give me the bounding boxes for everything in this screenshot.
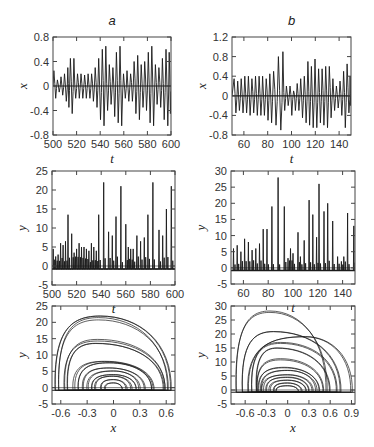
panel-title: b <box>288 13 295 28</box>
series-line <box>52 182 175 269</box>
y-tick-label: 20 <box>36 184 48 196</box>
x-tick-label: 120 <box>306 138 324 150</box>
plot-area <box>53 46 171 126</box>
y-tick-label: -0.8 <box>209 129 228 141</box>
x-axis: -0.6-0.300.30.60.9x <box>236 306 359 435</box>
y-tick-label: 15 <box>215 213 227 225</box>
y-tick-label: 0.8 <box>34 31 49 43</box>
x-tick-label: 580 <box>138 138 156 150</box>
y-tick-label: 30 <box>215 300 227 312</box>
y-tick-label: 1.2 <box>213 31 228 43</box>
x-axis: 500520540560580600t <box>44 37 180 166</box>
y-tick-label: 20 <box>36 316 48 328</box>
plot-area <box>232 52 351 130</box>
y-tick-label: 0 <box>42 260 48 272</box>
y-tick-label: 10 <box>36 349 48 361</box>
x-tick-label: 560 <box>117 288 135 300</box>
y-tick-label: -0.4 <box>30 105 49 117</box>
x-tick-label: 540 <box>92 288 110 300</box>
x-axis-label: t <box>110 151 114 166</box>
x-tick-label: 100 <box>282 138 300 150</box>
x-tick-label: 540 <box>91 138 109 150</box>
x-tick-label: 0 <box>110 407 116 419</box>
y-axis: -5051015202530y <box>193 300 355 410</box>
x-tick-label: 100 <box>284 287 302 299</box>
chart-panel-b-middle: 6080100120140t-5051015202530y <box>193 165 356 315</box>
y-tick-label: 10 <box>215 356 227 368</box>
chart-panel-a-top: 500520540560580600t-0.8-0.400.40.8xa <box>15 13 180 166</box>
y-axis-label: y <box>193 352 208 360</box>
y-tick-label: 5 <box>42 365 48 377</box>
x-tick-label: 600 <box>166 288 184 300</box>
y-tick-label: 15 <box>215 342 227 354</box>
y-tick-label: -5 <box>217 398 227 410</box>
y-axis: -5051015202530y <box>193 165 355 290</box>
x-tick-label: 520 <box>67 288 85 300</box>
y-axis-label: y <box>193 224 208 232</box>
x-axis-label: t <box>290 151 294 166</box>
y-axis-label: y <box>14 225 29 233</box>
x-tick-label: -0.6 <box>236 407 255 419</box>
x-tick-label: 600 <box>162 138 180 150</box>
y-tick-label: 0.8 <box>213 51 228 63</box>
x-tick-label: 120 <box>309 287 327 299</box>
y-tick-label: 15 <box>36 333 48 345</box>
chart-panel-a-middle: 500520540560580600t-50510152025y <box>14 165 184 316</box>
x-tick-label: 140 <box>330 138 348 150</box>
plot-area <box>52 182 175 269</box>
x-tick-label: 0.3 <box>301 407 316 419</box>
x-tick-label: -0.3 <box>78 407 97 419</box>
x-tick-label: 0.9 <box>344 407 359 419</box>
y-axis-label: x <box>194 83 209 90</box>
y-tick-label: 5 <box>221 370 227 382</box>
x-tick-label: -0.3 <box>257 407 276 419</box>
orbit-loop <box>276 386 298 393</box>
series-line <box>232 52 351 130</box>
chart-panel-b-top: 6080100120140t-0.8-0.400.40.81.2xb <box>194 13 351 166</box>
plot-area <box>231 311 355 392</box>
x-axis-label: t <box>291 300 295 315</box>
y-tick-label: 10 <box>215 230 227 242</box>
x-tick-label: 580 <box>141 288 159 300</box>
orbit-loop <box>259 367 319 392</box>
x-tick-label: 60 <box>238 138 250 150</box>
x-tick-label: 140 <box>333 287 351 299</box>
x-tick-label: 0.6 <box>159 407 174 419</box>
plot-area <box>231 178 356 271</box>
x-axis-label: x <box>110 420 117 435</box>
y-axis-label: x <box>15 83 30 90</box>
chart-panel-a-bottom: -0.6-0.300.30.6x-50510152025y <box>14 300 175 435</box>
y-tick-label: 25 <box>215 314 227 326</box>
y-axis-label: y <box>14 352 29 360</box>
x-tick-label: 80 <box>262 287 274 299</box>
y-tick-label: 25 <box>215 181 227 193</box>
plot-frame <box>52 306 175 404</box>
orbit-loop <box>105 383 122 390</box>
y-tick-label: 0 <box>43 80 49 92</box>
x-tick-label: 0.3 <box>132 407 147 419</box>
x-tick-label: 80 <box>262 138 274 150</box>
y-tick-label: 15 <box>36 203 48 215</box>
y-tick-label: 10 <box>36 222 48 234</box>
y-tick-label: -5 <box>38 398 48 410</box>
x-tick-label: -0.6 <box>51 407 70 419</box>
y-tick-label: 20 <box>215 328 227 340</box>
y-tick-label: 25 <box>36 165 48 177</box>
y-tick-label: 0 <box>221 262 227 274</box>
x-tick-label: 560 <box>115 138 133 150</box>
y-tick-label: 0 <box>222 90 228 102</box>
x-tick-label: 0 <box>285 407 291 419</box>
y-tick-label: 0 <box>221 384 227 396</box>
figure: 500520540560580600t-0.8-0.400.40.8xa6080… <box>0 0 374 447</box>
x-tick-label: 0.6 <box>323 407 338 419</box>
y-tick-label: -0.8 <box>30 129 49 141</box>
panel-title: a <box>108 13 115 28</box>
x-axis: -0.6-0.300.30.6x <box>51 306 174 435</box>
y-tick-label: 0 <box>42 382 48 394</box>
series-line <box>231 178 356 271</box>
chart-panel-b-bottom: -0.6-0.300.30.60.9x-5051015202530y <box>193 300 359 435</box>
y-tick-label: -0.4 <box>209 109 228 121</box>
orbit-loop <box>236 311 326 392</box>
x-tick-label: 60 <box>237 287 249 299</box>
y-axis: -50510152025y <box>14 165 175 291</box>
